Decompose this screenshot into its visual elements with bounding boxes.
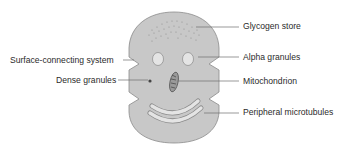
label-glycogen-store: Glycogen store [243,21,301,31]
alpha-granule-left [153,53,164,66]
label-surface-connecting-system: Surface-connecting system [10,55,114,65]
label-peripheral-microtubules: Peripheral microtubules [243,107,333,117]
dense-granule [148,79,151,82]
alpha-granule-right [183,53,194,66]
label-mitochondrion: Mitochondrion [243,76,297,86]
label-alpha-granules: Alpha granules [243,52,300,62]
label-dense-granules: Dense granules [56,75,116,85]
